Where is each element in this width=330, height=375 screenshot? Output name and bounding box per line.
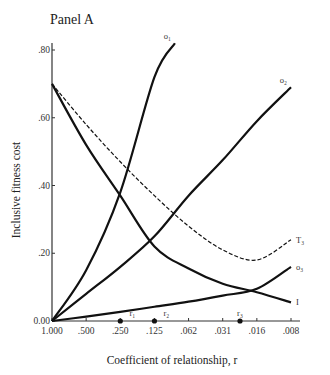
y-tick-label: 0.00 [33,316,50,326]
marker-dot [118,318,123,323]
y-tick-label: .20 [38,248,50,258]
y-tick-label: .80 [38,45,50,55]
curve-label-T3: T₃ [296,235,304,245]
x-tick-label: 1.000 [41,326,63,336]
curve-label-o2: o₂ [280,75,287,85]
curve-T3 [52,84,291,260]
curve-I [52,84,291,302]
y-axis-title: Inclusive fitness cost [10,141,22,238]
marker-label: r₁ [129,308,135,318]
curve-label-o3: o₃ [296,262,303,272]
curves [52,43,291,321]
marker-label: r₃ [237,308,243,318]
y-tick-label: .60 [38,113,50,123]
x-tick-label: .500 [78,326,95,336]
x-tick-label: .008 [283,326,300,336]
marker-dot [237,318,242,323]
x-tick-label: .062 [180,326,197,336]
x-tick-label: .125 [146,326,163,336]
marker-dot [152,318,157,323]
curve-o2 [52,87,291,321]
x-axis-title: Coefficient of relationship, r [107,354,238,367]
x-tick-label: .250 [112,326,129,336]
x-tick-label: .016 [249,326,266,336]
chart-area: 0.00.20.40.60.801.000.500.250.125.062.03… [0,0,330,375]
y-tick-label: .40 [38,181,50,191]
curve-label-o1: o₁ [164,31,171,41]
curve-o1 [52,43,175,321]
marker-label: r₂ [164,308,170,318]
curve-label-I: I [296,297,299,307]
x-tick-label: .031 [214,326,231,336]
